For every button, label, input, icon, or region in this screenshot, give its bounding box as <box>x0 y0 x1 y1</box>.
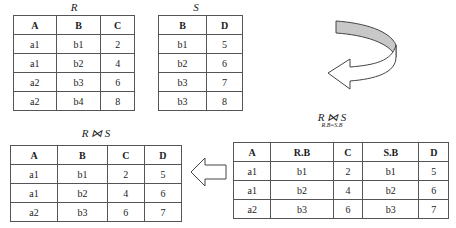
cell: b1 <box>159 35 207 54</box>
cell: 4 <box>333 181 362 200</box>
cell: 6 <box>107 203 144 222</box>
cell: 6 <box>101 73 135 92</box>
column-header: C <box>107 146 144 165</box>
theta-join-table: A R.B C S.B D a1 b1 2 b1 5 a1 b2 4 b2 6 … <box>233 142 449 219</box>
table-header-row: A B C <box>14 16 135 35</box>
cell: 7 <box>144 203 181 222</box>
cell: 8 <box>207 92 243 111</box>
cell: 7 <box>207 73 243 92</box>
cell: 6 <box>207 54 243 73</box>
table-row: a1 b2 4 6 <box>11 184 182 203</box>
cell: b1 <box>56 35 101 54</box>
cell: a1 <box>234 181 271 200</box>
cell: 7 <box>419 200 449 219</box>
column-header: D <box>207 16 243 35</box>
column-header: A <box>11 146 58 165</box>
cell: 2 <box>333 162 362 181</box>
cell: b3 <box>271 200 333 219</box>
table-row: b2 6 <box>159 54 243 73</box>
cell: 2 <box>107 165 144 184</box>
column-header: B <box>56 16 101 35</box>
table-row: b1 5 <box>159 35 243 54</box>
cell: b3 <box>363 200 419 219</box>
column-header: D <box>144 146 181 165</box>
cell: 6 <box>333 200 362 219</box>
column-header: R.B <box>271 143 333 162</box>
cell: a2 <box>234 200 271 219</box>
cell: b2 <box>159 54 207 73</box>
cell: a2 <box>14 92 57 111</box>
table-row: a1 b1 2 5 <box>11 165 182 184</box>
cell: b1 <box>58 165 108 184</box>
cell: b1 <box>271 162 333 181</box>
table-row: a2 b3 6 b3 7 <box>234 200 449 219</box>
cell: 8 <box>101 92 135 111</box>
cell: b3 <box>159 92 207 111</box>
relation-s-title: S <box>186 1 206 13</box>
table-row: a1 b2 4 <box>14 54 135 73</box>
relation-s-table: B D b1 5 b2 6 b3 7 b3 8 <box>158 15 243 111</box>
cell: 5 <box>144 165 181 184</box>
table-row: b3 7 <box>159 73 243 92</box>
cell: 5 <box>207 35 243 54</box>
relation-r-title: R <box>64 1 84 13</box>
table-header-row: A R.B C S.B D <box>234 143 449 162</box>
cell: 6 <box>419 181 449 200</box>
column-header: A <box>14 16 57 35</box>
cell: a2 <box>14 73 57 92</box>
cell: a1 <box>234 162 271 181</box>
curved-arrow-icon <box>320 15 406 95</box>
cell: 4 <box>107 184 144 203</box>
column-header: C <box>101 16 135 35</box>
cell: a2 <box>11 203 58 222</box>
cell: a1 <box>14 35 57 54</box>
cell: 6 <box>144 184 181 203</box>
table-row: a2 b3 6 <box>14 73 135 92</box>
cell: b2 <box>363 181 419 200</box>
table-header-row: A B C D <box>11 146 182 165</box>
column-header: B <box>58 146 108 165</box>
cell: b3 <box>159 73 207 92</box>
cell: a1 <box>14 54 57 73</box>
column-header: B <box>159 16 207 35</box>
cell: b2 <box>58 184 108 203</box>
cell: a1 <box>11 184 58 203</box>
cell: 4 <box>101 54 135 73</box>
relation-r-table: A B C a1 b1 2 a1 b2 4 a2 b3 6 a2 b4 8 <box>13 15 135 111</box>
left-arrow-icon <box>189 155 229 189</box>
cell: b1 <box>363 162 419 181</box>
cell: 5 <box>419 162 449 181</box>
table-row: a1 b2 4 b2 6 <box>234 181 449 200</box>
cell: b3 <box>56 73 101 92</box>
theta-join-label: R ⋈ S R.B=S.B <box>314 112 350 128</box>
table-row: a2 b4 8 <box>14 92 135 111</box>
column-header: D <box>419 143 449 162</box>
natural-join-table: A B C D a1 b1 2 5 a1 b2 4 6 a2 b3 6 7 <box>10 145 182 222</box>
cell: a1 <box>11 165 58 184</box>
table-row: a1 b1 2 b1 5 <box>234 162 449 181</box>
column-header: S.B <box>363 143 419 162</box>
cell: b3 <box>58 203 108 222</box>
cell: 2 <box>101 35 135 54</box>
table-row: a2 b3 6 7 <box>11 203 182 222</box>
cell: b2 <box>56 54 101 73</box>
table-row: a1 b1 2 <box>14 35 135 54</box>
table-row: b3 8 <box>159 92 243 111</box>
cell: b2 <box>271 181 333 200</box>
cell: b4 <box>56 92 101 111</box>
column-header: C <box>333 143 362 162</box>
column-header: A <box>234 143 271 162</box>
table-header-row: B D <box>159 16 243 35</box>
natural-join-title: R ⋈ S <box>78 127 114 140</box>
